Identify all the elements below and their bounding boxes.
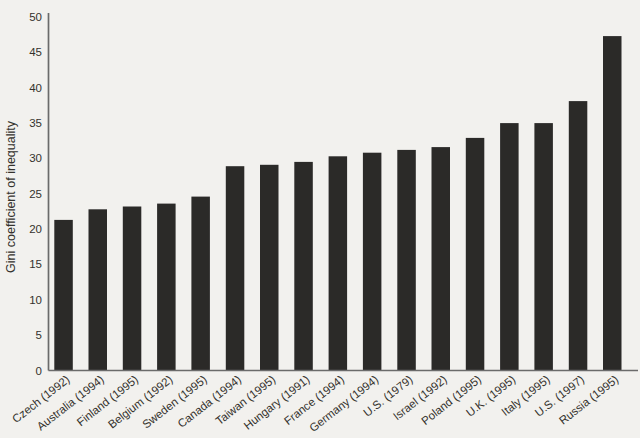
y-tick-label: 25: [29, 188, 42, 200]
y-tick-label: 15: [29, 258, 42, 270]
y-tick-label: 5: [36, 329, 42, 341]
bar: [432, 147, 451, 370]
y-tick-labels: 05101520253035404550: [29, 11, 42, 377]
bar: [500, 123, 518, 370]
bar: [54, 220, 73, 371]
bar: [89, 209, 108, 370]
gini-bar-chart: 05101520253035404550 Czech (1992)Austral…: [0, 0, 640, 438]
y-tick-label: 20: [29, 223, 42, 235]
bar: [397, 150, 416, 371]
y-tick-label: 0: [36, 365, 42, 377]
bar: [534, 123, 553, 370]
bar: [363, 153, 382, 371]
y-tick-label: 30: [29, 152, 42, 164]
bar: [191, 197, 210, 371]
bar: [569, 101, 588, 370]
bar: [260, 165, 279, 371]
y-tick-label: 45: [29, 46, 42, 58]
y-tick-label: 35: [29, 117, 42, 129]
bar: [157, 204, 176, 371]
bar: [603, 36, 622, 370]
bars-group: [54, 36, 621, 370]
bar: [294, 162, 313, 371]
y-tick-label: 10: [29, 294, 42, 306]
bar: [466, 138, 485, 371]
scanned-page: 05101520253035404550 Czech (1992)Austral…: [0, 0, 640, 438]
x-tick-label: Russia (1995): [557, 373, 621, 427]
y-tick-label: 40: [29, 82, 42, 94]
y-axis-title: Gini coefficient of inequality: [4, 120, 18, 273]
bar: [226, 166, 245, 370]
bar: [329, 156, 348, 370]
bar: [123, 207, 142, 371]
x-tick-labels: Czech (1992)Australia (1994)Finland (199…: [10, 373, 621, 434]
y-tick-label: 50: [29, 11, 42, 23]
x-tick-label: Poland (1995): [419, 373, 483, 427]
